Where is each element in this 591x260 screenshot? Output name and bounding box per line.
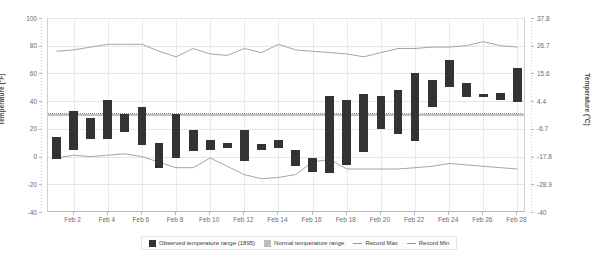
y-tick-label-right: -17.8 xyxy=(537,153,569,160)
y-tick-mark-right xyxy=(531,101,534,102)
legend-item[interactable]: Record Min xyxy=(407,240,450,246)
observed-range-bar[interactable] xyxy=(138,107,147,146)
observed-range-bar[interactable] xyxy=(513,68,522,103)
observed-range-bar[interactable] xyxy=(69,111,78,150)
legend-line-icon xyxy=(407,243,416,244)
y-tick-mark-right xyxy=(531,184,534,185)
x-tick-mark xyxy=(277,212,278,215)
y-tick-label-right: -28.9 xyxy=(537,181,569,188)
x-tick-label: Feb 28 xyxy=(496,216,536,224)
y-tick-mark-left xyxy=(39,101,42,102)
line-record-max xyxy=(57,42,518,57)
y-tick-label-right: 15.6 xyxy=(537,70,569,77)
observed-range-bar[interactable] xyxy=(342,100,351,165)
y-tick-label-right: -40 xyxy=(537,209,569,216)
observed-range-bar[interactable] xyxy=(257,144,266,150)
y-axis-right-title: Temperature (°C) xyxy=(584,73,591,125)
legend-label: Observed temperature range (1895) xyxy=(159,240,255,246)
x-tick-mark xyxy=(346,212,347,215)
y-tick-label-left: 0 xyxy=(7,153,37,160)
y-axis-left-rail xyxy=(41,18,42,212)
x-tick-mark xyxy=(380,212,381,215)
y-tick-mark-right xyxy=(531,73,534,74)
y-tick-label-right: 26.7 xyxy=(537,42,569,49)
x-tick-mark xyxy=(209,212,210,215)
y-tick-label-right: -6.7 xyxy=(537,125,569,132)
legend-swatch-icon xyxy=(264,240,271,247)
y-tick-mark-right xyxy=(531,18,534,19)
observed-range-bar[interactable] xyxy=(172,114,181,158)
observed-range-bar[interactable] xyxy=(120,114,129,132)
y-axis-right-rail xyxy=(531,18,532,212)
chart-legend: Observed temperature range (1895)Normal … xyxy=(141,236,457,250)
legend-swatch-icon xyxy=(149,240,156,247)
y-tick-mark-left xyxy=(39,157,42,158)
y-tick-mark-left xyxy=(39,46,42,47)
legend-item[interactable]: Record Max xyxy=(353,240,397,246)
observed-range-bar[interactable] xyxy=(86,118,95,139)
legend-label: Normal temperature range xyxy=(274,240,344,246)
x-tick-mark xyxy=(243,212,244,215)
x-tick-mark xyxy=(312,212,313,215)
legend-item[interactable]: Normal temperature range xyxy=(264,240,344,247)
observed-range-bar[interactable] xyxy=(377,96,386,129)
y-tick-label-left: 80 xyxy=(7,42,37,49)
observed-range-bar[interactable] xyxy=(496,93,505,100)
legend-item[interactable]: Observed temperature range (1895) xyxy=(149,240,255,247)
y-tick-mark-left xyxy=(39,129,42,130)
x-tick-mark xyxy=(516,212,517,215)
observed-range-bar[interactable] xyxy=(411,73,420,141)
observed-range-bar[interactable] xyxy=(189,130,198,151)
x-tick-mark xyxy=(482,212,483,215)
observed-range-bar[interactable] xyxy=(479,94,488,97)
x-tick-mark xyxy=(141,212,142,215)
y-tick-mark-right xyxy=(531,129,534,130)
x-tick-mark xyxy=(448,212,449,215)
y-axis-left-title: Temperature (°F) xyxy=(0,74,5,126)
observed-range-bar[interactable] xyxy=(428,80,437,106)
observed-range-bar[interactable] xyxy=(103,100,112,139)
y-tick-label-right: 37.8 xyxy=(537,15,569,22)
y-tick-label-left: 20 xyxy=(7,125,37,132)
y-tick-label-left: 100 xyxy=(7,15,37,22)
observed-range-bar[interactable] xyxy=(52,137,61,159)
legend-label: Record Min xyxy=(419,240,450,246)
observed-range-bar[interactable] xyxy=(223,143,232,149)
y-tick-label-left: -20 xyxy=(7,181,37,188)
y-tick-mark-left xyxy=(39,73,42,74)
observed-range-bar[interactable] xyxy=(308,158,317,172)
line-record-min xyxy=(57,154,518,179)
temperature-range-chart: Temperature (°F) Temperature (°C) 100806… xyxy=(0,0,591,260)
y-tick-mark-right xyxy=(531,212,534,213)
legend-line-icon xyxy=(353,243,362,244)
x-tick-mark xyxy=(73,212,74,215)
y-tick-mark-right xyxy=(531,46,534,47)
x-tick-mark xyxy=(175,212,176,215)
x-tick-mark xyxy=(414,212,415,215)
observed-range-bar[interactable] xyxy=(206,140,215,150)
y-tick-label-right: 4.4 xyxy=(537,98,569,105)
y-tick-mark-left xyxy=(39,18,42,19)
observed-range-bar[interactable] xyxy=(240,130,249,161)
observed-range-bar[interactable] xyxy=(462,83,471,97)
y-tick-mark-left xyxy=(39,184,42,185)
y-tick-mark-right xyxy=(531,157,534,158)
y-tick-mark-left xyxy=(39,212,42,213)
x-tick-mark xyxy=(107,212,108,215)
y-tick-label-left: 60 xyxy=(7,70,37,77)
observed-range-bar[interactable] xyxy=(325,96,334,174)
observed-range-bar[interactable] xyxy=(359,94,368,152)
y-tick-label-left: -40 xyxy=(7,209,37,216)
observed-range-bar[interactable] xyxy=(291,150,300,167)
y-tick-label-left: 40 xyxy=(7,98,37,105)
observed-range-bar[interactable] xyxy=(394,90,403,134)
observed-range-bar[interactable] xyxy=(155,143,164,168)
legend-label: Record Max xyxy=(365,240,397,246)
observed-range-bar[interactable] xyxy=(274,140,283,148)
observed-range-bar[interactable] xyxy=(445,60,454,88)
plot-area xyxy=(47,18,525,212)
